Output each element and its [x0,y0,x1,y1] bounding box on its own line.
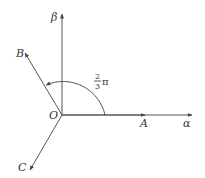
beta-axis-label: β [50,11,57,24]
vector-c-label: C [18,161,27,174]
origin-label: O [49,109,58,122]
angle-numerator: 2 [95,72,100,81]
angle-label: 2 3 π [94,72,109,91]
vector-c [30,115,62,170]
vector-a-label: A [139,117,148,130]
angle-denominator: 3 [95,82,100,91]
vector-b [25,53,62,115]
alpha-axis-label: α [183,117,191,130]
vector-b-label: B [15,47,24,60]
pi-symbol: π [102,76,109,87]
vector-diagram: β α A B C O 2 3 π [0,0,205,178]
